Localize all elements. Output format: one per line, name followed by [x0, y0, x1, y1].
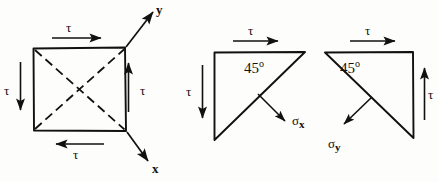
triangle-y-sigma-label: σy	[328, 137, 341, 153]
square-element-group	[21, 12, 154, 161]
triangle-y-sigma-subscript: y	[335, 141, 341, 153]
triangle-y-sigma-symbol: σ	[328, 136, 335, 151]
square-tau-bottom-label: τ	[73, 148, 78, 161]
triangle-x-tau-top-label: τ	[248, 24, 253, 37]
square-tau-left-label: τ	[4, 84, 9, 97]
axis-x-arrow	[127, 132, 148, 161]
triangle-x-angle-value: 45	[244, 60, 259, 76]
triangle-y-outline	[325, 52, 414, 138]
triangle-x-group	[203, 41, 306, 140]
triangle-y-sigma-arrow	[344, 97, 372, 124]
triangle-x-tau-left-label: τ	[186, 85, 191, 98]
triangle-x-sigma-subscript: x	[299, 118, 305, 130]
square-tau-top-label: τ	[66, 21, 71, 34]
triangle-x-sigma-arrow	[258, 94, 285, 121]
axis-y-label: y	[156, 3, 163, 16]
square-tau-right-label: τ	[140, 84, 145, 97]
triangle-y-group	[325, 41, 425, 138]
triangle-y-tau-top-label: τ	[365, 24, 370, 37]
axis-y-arrow	[126, 12, 153, 47]
triangle-x-angle-label: 45o	[244, 59, 264, 76]
triangle-y-angle-unit: o	[355, 58, 360, 69]
triangle-y-angle-value: 45	[340, 60, 355, 76]
triangle-x-sigma-symbol: σ	[292, 113, 299, 128]
triangle-y-angle-label: 45o	[340, 59, 360, 76]
axis-x-label: x	[152, 162, 159, 175]
figure-canvas: τ τ τ τ y x τ τ 45o σx τ τ 45o σy	[0, 0, 438, 182]
triangle-x-sigma-label: σx	[292, 114, 305, 130]
triangle-y-tau-right-label: τ	[428, 88, 433, 101]
triangle-x-angle-unit: o	[259, 58, 264, 69]
